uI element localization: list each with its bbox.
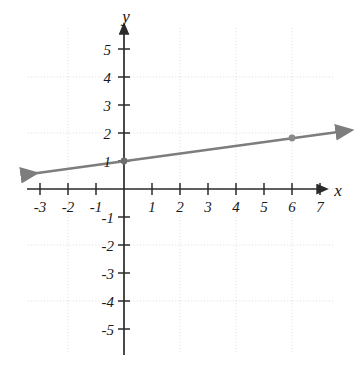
- y-tick-label: 2: [104, 126, 112, 142]
- x-tick-label: -2: [62, 199, 75, 215]
- x-tick-label: 3: [203, 199, 212, 215]
- y-tick-label: 5: [104, 42, 112, 58]
- y-tick-label: -3: [102, 266, 115, 282]
- y-axis-label: y: [120, 7, 130, 26]
- graph-figure: -3 -2 -1 1 2 3 4 5 6 7 5 4 3 2 1 -1 -2 -…: [0, 0, 362, 365]
- x-tick-label: -1: [90, 199, 103, 215]
- data-point-x6: [289, 135, 296, 142]
- x-tick-labels: -3 -2 -1 1 2 3 4 5 6 7: [34, 199, 326, 215]
- y-tick-label: 3: [103, 98, 112, 114]
- y-tick-label: -2: [102, 238, 115, 254]
- grid-lines: [28, 28, 334, 352]
- y-tick-label: -4: [102, 294, 115, 310]
- x-tick-label: 2: [176, 199, 184, 215]
- y-tick-label: 4: [104, 70, 112, 86]
- axes: [27, 33, 318, 355]
- x-tick-label: 5: [260, 199, 268, 215]
- x-tick-label: 7: [316, 199, 325, 215]
- y-tick-labels: 5 4 3 2 1 -1 -2 -3 -4 -5: [102, 42, 115, 338]
- y-tick-label: -1: [102, 210, 115, 226]
- data-point-y-intercept: [121, 158, 128, 165]
- y-tick-label: 1: [104, 154, 112, 170]
- x-axis-label: x: [333, 181, 342, 200]
- x-tick-label: 6: [288, 199, 296, 215]
- x-tick-label: -3: [34, 199, 47, 215]
- coordinate-plane-svg: -3 -2 -1 1 2 3 4 5 6 7 5 4 3 2 1 -1 -2 -…: [0, 0, 362, 365]
- x-tick-label: 1: [148, 199, 156, 215]
- x-tick-label: 4: [232, 199, 240, 215]
- y-tick-label: -5: [102, 322, 115, 338]
